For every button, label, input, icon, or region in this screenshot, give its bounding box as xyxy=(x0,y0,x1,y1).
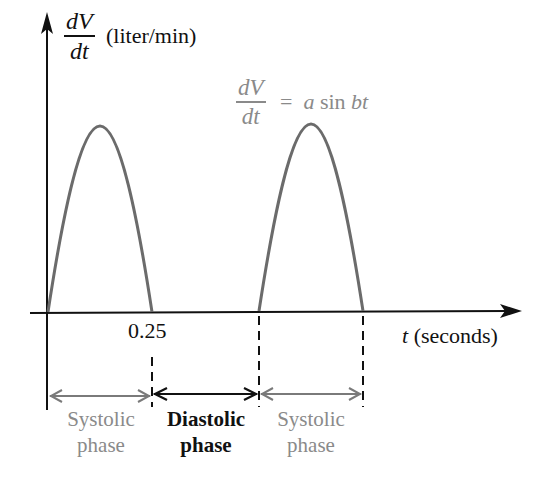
systolic-curve-1 xyxy=(48,126,152,312)
phase-line2: phase xyxy=(260,432,362,458)
systolic-interval-arrow-1 xyxy=(50,390,150,402)
phase-line1: Systolic xyxy=(260,406,362,432)
phase-line1: Systolic xyxy=(50,406,152,432)
systolic-curve-2 xyxy=(259,124,363,311)
x-axis xyxy=(30,311,508,313)
phase-line1: Diastolic xyxy=(152,406,260,432)
x-tick-label: 0.25 xyxy=(128,318,167,344)
equation-denominator: dt xyxy=(240,103,262,128)
x-axis-unit: (seconds) xyxy=(414,323,498,348)
y-axis-numerator: dV xyxy=(64,9,95,35)
phase-label-diastolic: Diastolic phase xyxy=(152,406,260,458)
phase-line2: phase xyxy=(50,432,152,458)
x-axis-variable: t xyxy=(402,323,408,348)
phase-label-systolic-1: Systolic phase xyxy=(50,406,152,458)
equation-equals: = xyxy=(280,89,292,114)
equation-rhs: = a sin bt xyxy=(280,89,368,115)
equation-fraction: dV dt xyxy=(236,76,266,128)
y-axis-denominator: dt xyxy=(68,37,91,63)
phase-label-systolic-2: Systolic phase xyxy=(260,406,362,458)
y-axis-label-fraction: dV dt xyxy=(64,9,95,63)
diastolic-interval-arrow xyxy=(154,388,257,400)
x-axis-label: t (seconds) xyxy=(402,323,498,349)
equation-a: a xyxy=(303,89,314,114)
equation-numerator: dV xyxy=(236,76,266,101)
phase-line2: phase xyxy=(152,432,260,458)
equation-sin: sin xyxy=(320,89,346,114)
equation-bt: bt xyxy=(351,89,368,114)
systolic-interval-arrow-2 xyxy=(261,388,361,400)
y-axis-unit: (liter/min) xyxy=(106,23,196,49)
